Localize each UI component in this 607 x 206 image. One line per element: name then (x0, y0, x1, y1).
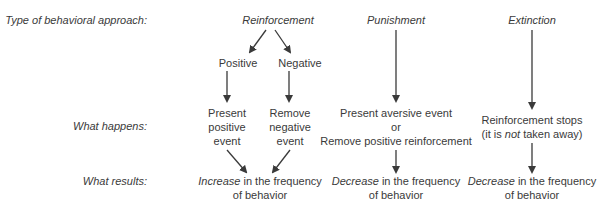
negative-label: Negative (278, 56, 321, 70)
reinforcement-title: Reinforcement (242, 13, 314, 27)
arrow-negative-to-increase (273, 150, 290, 172)
extinction-happens: Reinforcement stops (it is not taken awa… (482, 113, 583, 141)
extinction-result: Decrease in the frequency of behavior (468, 174, 596, 202)
punishment-title: Punishment (367, 13, 425, 27)
positive-label: Positive (219, 56, 258, 70)
row-label-type: Type of behavioral approach: (5, 13, 147, 27)
row-label-happens: What happens: (73, 119, 147, 133)
punishment-result: Decrease in the frequency of behavior (332, 174, 460, 202)
extinction-title: Extinction (508, 13, 556, 27)
arrow-reinforcement-to-negative (275, 30, 290, 52)
reinforcement-result: Increase in the frequency of behavior (198, 174, 322, 202)
arrow-positive-to-increase (227, 150, 246, 172)
negative-happens: Remove negative event (269, 106, 311, 148)
punishment-happens: Present aversive event or Remove positiv… (320, 106, 472, 148)
arrow-reinforcement-to-positive (250, 30, 266, 52)
positive-happens: Present positive event (208, 106, 246, 148)
row-label-results: What results: (83, 174, 147, 188)
